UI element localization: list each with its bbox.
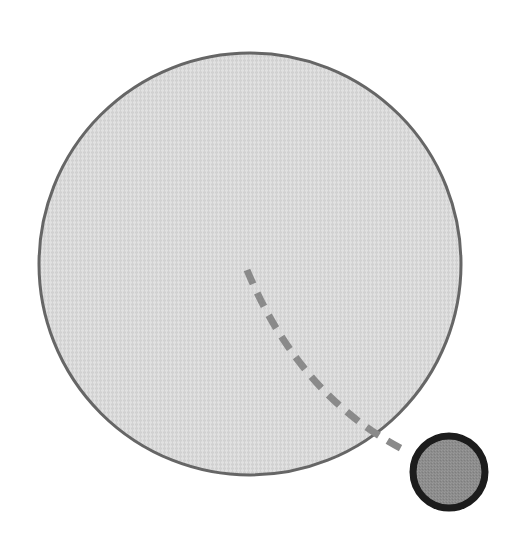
large-disc-body: [39, 53, 461, 475]
large-disc[interactable]: [39, 53, 461, 475]
figure-canvas: Schematic of a large textured disc with …: [0, 0, 518, 552]
small-disc-body: [413, 436, 485, 508]
small-disc[interactable]: [413, 436, 485, 508]
figure-svg: Schematic of a large textured disc with …: [0, 0, 518, 552]
